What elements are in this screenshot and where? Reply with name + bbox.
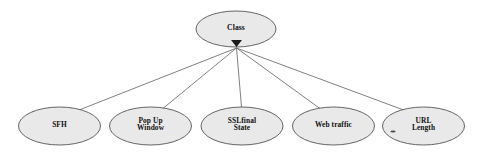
diagram-graphics bbox=[0, 0, 480, 152]
node-shape-group bbox=[19, 11, 465, 145]
speck-artifact bbox=[390, 131, 395, 133]
edge-class-web-traffic bbox=[237, 48, 323, 110]
edge-group bbox=[74, 48, 409, 112]
edge-class-pop-up-window bbox=[161, 48, 237, 110]
node-shape-sfh[interactable] bbox=[19, 107, 101, 145]
node-shape-pop-up-window[interactable] bbox=[110, 107, 192, 145]
edge-class-url-length bbox=[237, 48, 410, 112]
node-shape-sslfinal-state[interactable] bbox=[201, 107, 283, 145]
node-shape-web-traffic[interactable] bbox=[293, 107, 375, 145]
diagram-canvas: Class SFH Pop Up Window SSLfinal State W… bbox=[0, 0, 480, 152]
node-shape-url-length[interactable] bbox=[383, 107, 465, 145]
edge-class-sfh bbox=[74, 48, 237, 112]
edge-class-sslfinal-state bbox=[237, 48, 242, 107]
